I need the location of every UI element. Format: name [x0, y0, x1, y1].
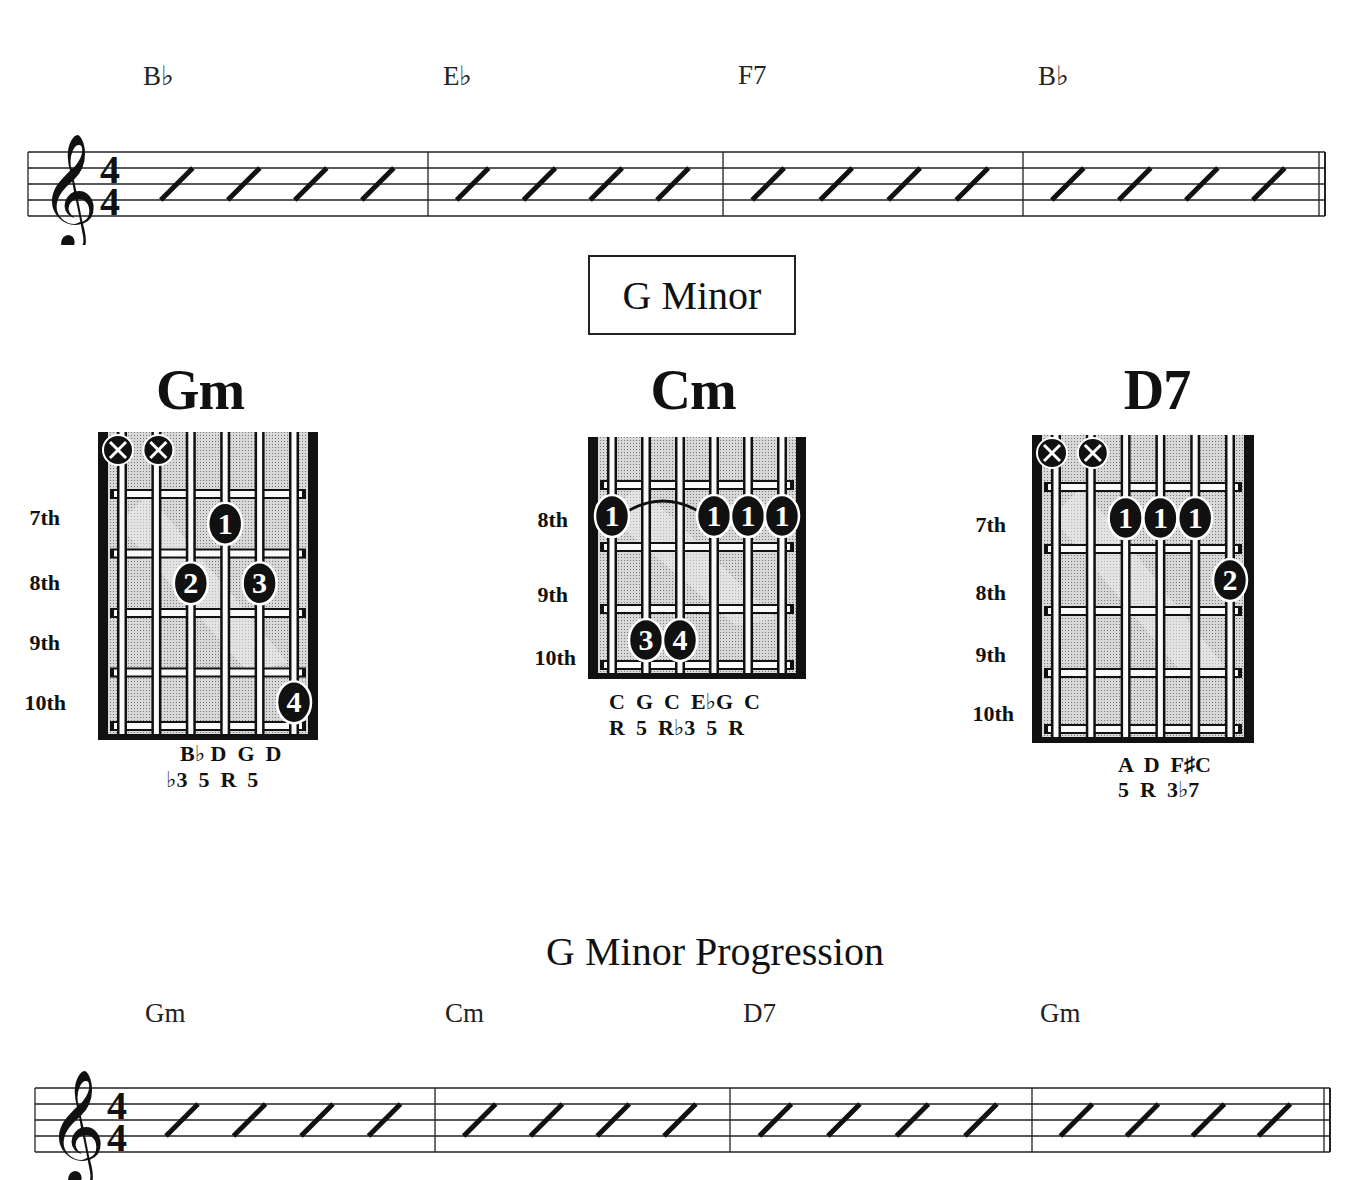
svg-text:1: 1	[707, 499, 722, 532]
chord-symbol: Gm	[1040, 998, 1081, 1029]
finger-dot: 1	[765, 495, 799, 537]
note-intervals: 5 R 3♭7	[1118, 776, 1199, 803]
svg-text:2: 2	[183, 566, 198, 599]
finger-dot: 3	[243, 562, 277, 604]
progression-title: G Minor Progression	[0, 928, 1355, 975]
staff: 𝄞44	[0, 120, 1355, 245]
chord-symbol: Cm	[445, 998, 484, 1029]
x-circle-icon	[103, 435, 133, 465]
svg-text:1: 1	[775, 499, 790, 532]
svg-text:2: 2	[1223, 563, 1238, 596]
time-signature-bottom: 4	[107, 1115, 127, 1160]
x-circle-icon	[1037, 438, 1067, 468]
fret-label: 9th	[0, 630, 60, 656]
svg-text:1: 1	[605, 499, 620, 532]
svg-text:1: 1	[741, 499, 756, 532]
section-title-box: G Minor	[588, 255, 796, 335]
svg-text:1: 1	[1118, 501, 1133, 534]
fret-label: 10th	[954, 701, 1014, 727]
chord-symbol: E♭	[443, 60, 473, 92]
fret-label: 8th	[508, 507, 568, 533]
finger-dot: 1	[1143, 497, 1177, 539]
svg-text:3: 3	[639, 623, 654, 656]
finger-dot: 1	[595, 495, 629, 537]
svg-text:1: 1	[1188, 501, 1203, 534]
finger-dot: 1	[697, 495, 731, 537]
section-title: G Minor	[623, 272, 762, 319]
svg-text:4: 4	[287, 685, 302, 718]
fret-label: 10th	[6, 690, 66, 716]
chord-symbol: B♭	[143, 60, 174, 92]
fret-label: 8th	[0, 570, 60, 596]
treble-clef-icon: 𝄞	[47, 1068, 106, 1180]
x-circle-icon	[143, 435, 173, 465]
fret-label: 9th	[946, 642, 1006, 668]
svg-text:3: 3	[252, 566, 267, 599]
staff: 𝄞44	[0, 1058, 1355, 1180]
finger-dot: 2	[1213, 559, 1247, 601]
fretboard: 1234	[98, 432, 318, 740]
svg-text:1: 1	[218, 507, 233, 540]
fret-label: 8th	[946, 580, 1006, 606]
note-names: B♭ D G D	[180, 740, 281, 767]
note-intervals: R 5 R♭3 5 R	[609, 714, 744, 741]
finger-dot: 4	[277, 681, 311, 723]
finger-dot: 3	[629, 619, 663, 661]
chord-symbol: F7	[738, 60, 767, 91]
fretboard: 1112	[1032, 435, 1254, 743]
note-names: A D F♯C	[1118, 752, 1211, 778]
finger-dot: 1	[1178, 497, 1212, 539]
finger-dot: 1	[731, 495, 765, 537]
chord-symbol: D7	[743, 998, 776, 1029]
x-circle-icon	[1078, 438, 1108, 468]
chord-name: Cm	[593, 358, 793, 422]
fret-label: 9th	[508, 582, 568, 608]
time-signature-bottom: 4	[100, 179, 120, 224]
fret-label: 7th	[0, 505, 60, 531]
note-names: C G C E♭G C	[609, 688, 760, 715]
fret-label: 7th	[946, 512, 1006, 538]
treble-clef-icon: 𝄞	[40, 132, 99, 245]
fretboard: 111134	[588, 437, 806, 679]
svg-text:4: 4	[673, 623, 688, 656]
finger-dot: 4	[663, 619, 697, 661]
chord-symbol: Gm	[145, 998, 186, 1029]
chord-name: D7	[1057, 358, 1257, 422]
svg-text:1: 1	[1153, 501, 1168, 534]
chord-name: Gm	[100, 358, 300, 422]
note-intervals: ♭3 5 R 5	[166, 766, 258, 793]
chord-symbol: B♭	[1038, 60, 1069, 92]
finger-dot: 1	[208, 503, 242, 545]
fret-label: 10th	[516, 645, 576, 671]
finger-dot: 1	[1109, 497, 1143, 539]
finger-dot: 2	[174, 562, 208, 604]
